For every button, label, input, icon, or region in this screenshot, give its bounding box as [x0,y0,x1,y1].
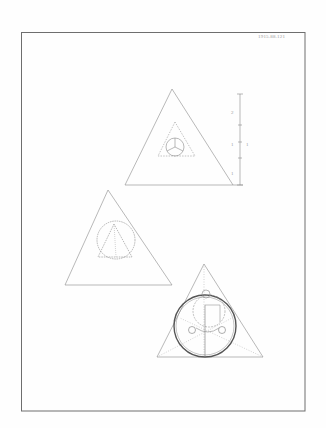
bottom-left-small-circle [189,327,196,334]
drawing-canvas: 2 1 1 1 [0,0,326,428]
catalog-number: 1915.88.121 [258,34,285,39]
middle-circle [97,221,135,259]
top-inner-triangle [158,122,195,156]
bottom-right-small-circle [219,327,226,334]
top-figure [125,89,233,185]
scale-label: 1 [231,171,234,176]
drawing-sheet: 2 1 1 1 1915.88.121 [0,0,326,428]
scale-label: 2 [231,110,234,115]
bottom-figure [157,264,263,357]
top-radius [175,147,183,151]
scale-label: 1 [246,142,249,147]
scale-label: 1 [231,142,234,147]
bottom-outer-triangle [157,264,263,357]
page-border [22,33,306,412]
top-radius [167,147,175,151]
scale-bar [233,94,243,185]
middle-figure [65,190,172,285]
middle-outer-triangle [65,190,172,285]
top-outer-triangle [125,89,233,185]
